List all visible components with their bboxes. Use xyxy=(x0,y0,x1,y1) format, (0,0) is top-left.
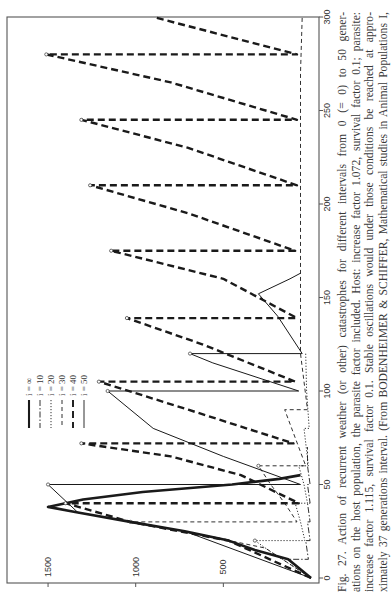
data-point-marker xyxy=(125,316,128,319)
data-point-marker xyxy=(80,442,83,445)
legend-label: i = 20 xyxy=(46,374,56,396)
series-line xyxy=(130,17,311,578)
x-tick-label: 100 xyxy=(322,383,332,398)
legend-label: i = 30 xyxy=(57,374,67,396)
legend-label: i = 50 xyxy=(79,374,89,396)
data-point-marker xyxy=(106,389,109,392)
data-point-marker xyxy=(80,118,83,121)
y-tick-label: 500 xyxy=(218,559,228,574)
figure-caption: Fig. 27. Action of recurrent weather (or… xyxy=(336,12,391,592)
data-point-marker xyxy=(253,539,256,542)
x-tick-label: 300 xyxy=(322,9,332,24)
caption-line-2: ations on the host population, the paras… xyxy=(350,12,364,592)
plot-frame xyxy=(7,17,319,583)
series-line xyxy=(46,17,311,578)
caption-line-3: increase factor 1.115, survival factor 0… xyxy=(363,12,377,592)
rotated-chart-figure: 05010015020025030050010001500 i = ∞i = 1… xyxy=(0,0,391,592)
series-line xyxy=(288,447,311,578)
legend-label: i = 10 xyxy=(35,374,45,396)
y-tick-label: 1500 xyxy=(43,557,53,577)
data-point-marker xyxy=(97,380,100,383)
caption-line-1: Fig. 27. Action of recurrent weather (or… xyxy=(336,12,350,592)
data-point-marker xyxy=(46,483,49,486)
y-tick-label: 1000 xyxy=(131,557,141,577)
data-point-marker xyxy=(257,464,260,467)
x-tick-label: 50 xyxy=(322,479,332,489)
data-point-marker xyxy=(45,53,48,56)
caption-line-4: ximately 37 generations interval. (From … xyxy=(377,12,391,592)
data-point-marker xyxy=(188,352,191,355)
legend-label: i = ∞ xyxy=(24,378,34,397)
x-tick-label: 200 xyxy=(322,196,332,211)
data-point-marker xyxy=(110,249,113,252)
x-tick-label: 150 xyxy=(322,290,332,305)
data-series xyxy=(45,17,311,578)
data-point-marker xyxy=(89,184,92,187)
x-tick-label: 0 xyxy=(322,575,332,580)
legend-label: i = 40 xyxy=(68,374,78,396)
x-tick-label: 250 xyxy=(322,103,332,118)
legend: i = ∞i = 10i = 20i = 30i = 40i = 50 xyxy=(24,374,89,428)
